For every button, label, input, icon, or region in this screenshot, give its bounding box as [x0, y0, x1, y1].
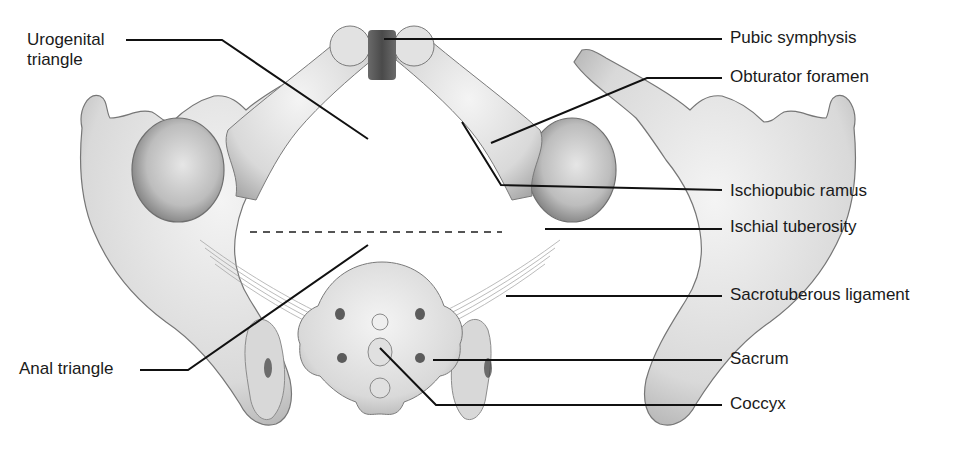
label-sacrotuberous-ligament: Sacrotuberous ligament — [730, 285, 910, 305]
label-urogenital-triangle: Urogenital triangle — [27, 30, 105, 70]
label-pubic-symphysis: Pubic symphysis — [730, 28, 857, 48]
label-coccyx: Coccyx — [730, 394, 786, 414]
label-anal-triangle: Anal triangle — [19, 359, 114, 379]
label-obturator-foramen: Obturator foramen — [730, 67, 869, 87]
sacrum-coccyx — [298, 262, 462, 414]
label-ischiopubic-ramus: Ischiopubic ramus — [730, 181, 867, 201]
pubic-symphysis-cartilage — [368, 30, 396, 80]
label-ischial-tuberosity: Ischial tuberosity — [730, 217, 857, 237]
pelvis-diagram: Urogenital triangle Anal triangle Pubic … — [0, 0, 969, 471]
label-sacrum: Sacrum — [730, 349, 789, 369]
